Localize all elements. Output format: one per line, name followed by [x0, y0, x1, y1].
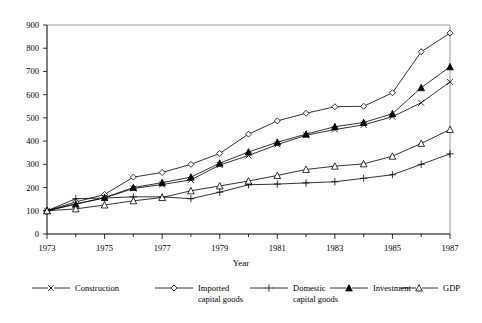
x-tick-label: 1981: [269, 243, 286, 253]
chart-canvas: 0100200300400500600700800900 19731975197…: [0, 0, 482, 323]
x-tick-label: 1985: [384, 243, 401, 253]
line-chart: 0100200300400500600700800900 19731975197…: [0, 0, 482, 323]
x-axis-title: Year: [233, 258, 250, 268]
legend-label-line2: capital goods: [293, 294, 338, 304]
x-tick-label: 1983: [326, 243, 343, 253]
y-tick-label: 800: [26, 43, 39, 53]
y-tick-label: 100: [26, 206, 39, 216]
x-tick-label: 1977: [154, 243, 171, 253]
x-tick-label: 1975: [96, 243, 113, 253]
legend-label: Domestic: [293, 283, 326, 293]
legend-label: Imported: [198, 283, 230, 293]
y-tick-label: 600: [26, 90, 39, 100]
legend-label: Construction: [75, 283, 120, 293]
y-tick-label: 300: [26, 159, 39, 169]
y-tick-label: 900: [26, 20, 39, 30]
legend-label-line2: capital goods: [198, 294, 243, 304]
x-tick-label: 1973: [39, 243, 56, 253]
chart-background: [0, 0, 482, 323]
y-tick-label: 0: [35, 229, 39, 239]
legend-label: GDP: [443, 283, 460, 293]
y-tick-label: 700: [26, 66, 39, 76]
y-tick-label: 500: [26, 113, 39, 123]
x-tick-label: 1987: [442, 243, 459, 253]
y-tick-label: 400: [26, 136, 39, 146]
y-tick-label: 200: [26, 183, 39, 193]
x-tick-label: 1979: [211, 243, 228, 253]
